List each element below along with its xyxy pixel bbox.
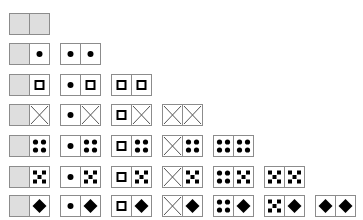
domino-tile-cross-diamond (162, 195, 203, 217)
five-dots-icon (81, 167, 100, 187)
domino-tile-square-four-dots (111, 135, 152, 157)
square-icon (112, 167, 132, 187)
four-dots-icon (30, 136, 49, 156)
diamond-icon (30, 196, 49, 216)
domino-tile-square-cross (111, 104, 152, 126)
domino-tile-blank-diamond (9, 195, 50, 217)
five-dots-icon (132, 167, 151, 187)
dot-icon (61, 136, 81, 156)
five-dots-icon (183, 167, 202, 187)
blank-icon (10, 196, 30, 216)
blank-icon (10, 75, 30, 95)
domino-tile-cross-four-dots (162, 135, 203, 157)
dot-icon (61, 196, 81, 216)
dot-icon (61, 44, 81, 64)
domino-tile-blank-cross (9, 104, 50, 126)
domino-tile-dot-four-dots (60, 135, 101, 157)
domino-tile-blank-four-dots (9, 135, 50, 157)
domino-tile-cross-five-dots (162, 166, 203, 188)
domino-tile-dot-dot (60, 43, 101, 65)
blank-icon (10, 44, 30, 64)
dot-icon (61, 105, 81, 125)
domino-tile-dot-five-dots (60, 166, 101, 188)
domino-tile-square-square (111, 74, 152, 96)
square-icon (112, 196, 132, 216)
blank-icon (30, 14, 49, 34)
domino-tile-four-dots-five-dots (213, 166, 254, 188)
square-icon (112, 136, 132, 156)
domino-tile-square-five-dots (111, 166, 152, 188)
five-dots-icon (265, 167, 285, 187)
blank-icon (10, 136, 30, 156)
five-dots-icon (30, 167, 49, 187)
domino-tile-diamond-diamond (315, 195, 356, 217)
domino-tile-dot-square (60, 74, 101, 96)
domino-tile-blank-square (9, 74, 50, 96)
four-dots-icon (234, 136, 253, 156)
domino-tile-blank-dot (9, 43, 50, 65)
cross-icon (163, 167, 183, 187)
cross-icon (81, 105, 100, 125)
cross-icon (183, 105, 202, 125)
domino-tile-five-dots-five-dots (264, 166, 305, 188)
cross-icon (132, 105, 151, 125)
cross-icon (163, 196, 183, 216)
four-dots-icon (81, 136, 100, 156)
square-icon (132, 75, 151, 95)
blank-icon (10, 167, 30, 187)
diamond-icon (316, 196, 336, 216)
domino-tile-blank-five-dots (9, 166, 50, 188)
dot-icon (61, 75, 81, 95)
dot-icon (81, 44, 100, 64)
cross-icon (163, 105, 183, 125)
five-dots-icon (234, 167, 253, 187)
blank-icon (10, 105, 30, 125)
four-dots-icon (214, 136, 234, 156)
diamond-icon (81, 196, 100, 216)
domino-tile-five-dots-diamond (264, 195, 305, 217)
four-dots-icon (214, 167, 234, 187)
square-icon (81, 75, 100, 95)
diamond-icon (285, 196, 304, 216)
five-dots-icon (265, 196, 285, 216)
cross-icon (163, 136, 183, 156)
square-icon (112, 75, 132, 95)
four-dots-icon (132, 136, 151, 156)
dot-icon (30, 44, 49, 64)
domino-tile-blank-blank (9, 13, 50, 35)
domino-tile-dot-cross (60, 104, 101, 126)
diamond-icon (183, 196, 202, 216)
domino-tile-cross-cross (162, 104, 203, 126)
cross-icon (30, 105, 49, 125)
square-icon (30, 75, 49, 95)
four-dots-icon (214, 196, 234, 216)
five-dots-icon (285, 167, 304, 187)
domino-tile-dot-diamond (60, 195, 101, 217)
blank-icon (10, 14, 30, 34)
diamond-icon (132, 196, 151, 216)
square-icon (112, 105, 132, 125)
four-dots-icon (183, 136, 202, 156)
dot-icon (61, 167, 81, 187)
domino-tile-four-dots-four-dots (213, 135, 254, 157)
diamond-icon (234, 196, 253, 216)
domino-tile-four-dots-diamond (213, 195, 254, 217)
diamond-icon (336, 196, 355, 216)
domino-tile-square-diamond (111, 195, 152, 217)
